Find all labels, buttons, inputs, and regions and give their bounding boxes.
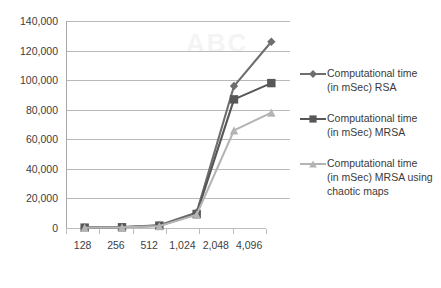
- diamond-icon: [309, 70, 317, 78]
- legend-label: Computational time (in mSec) RSA: [326, 66, 417, 94]
- y-axis-tick-label: 80,000: [26, 105, 58, 115]
- x-axis-tick-label: 512: [140, 239, 158, 251]
- chart-legend: Computational time (in mSec) RSA Computa…: [300, 66, 441, 215]
- legend-label: Computational time (in mSec) MRSA: [326, 111, 417, 139]
- series-line: [85, 113, 272, 228]
- series-1: [80, 79, 275, 232]
- legend-marker-diamond-icon: [300, 67, 326, 80]
- y-axis-tick-label: 40,000: [26, 164, 58, 174]
- square-icon: [309, 115, 317, 123]
- triangle-marker-icon: [230, 126, 238, 134]
- y-axis-tick-label: 60,000: [26, 134, 58, 144]
- y-axis-tick-label: 140,000: [20, 16, 58, 26]
- legend-marker-square-icon: [300, 112, 326, 125]
- triangle-icon: [309, 160, 317, 168]
- x-axis-tick-labels: 128 256 512 1,024 2,048 4,096: [66, 239, 290, 259]
- x-axis-tick: [66, 229, 67, 234]
- y-axis-tick-label: 100,000: [20, 75, 58, 85]
- y-axis-tick-labels: 140,000 120,000 100,000 80,000 60,000 40…: [0, 0, 62, 288]
- x-axis-tick: [166, 229, 167, 234]
- series-2: [80, 108, 275, 231]
- series-line: [85, 83, 272, 228]
- plot-area: 140,000 120,000 100,000 80,000 60,000 40…: [0, 0, 300, 288]
- square-marker-icon: [230, 95, 238, 103]
- x-axis-tick: [266, 229, 267, 234]
- x-axis-tick: [133, 229, 134, 234]
- legend-entry-rsa[interactable]: Computational time (in mSec) RSA: [300, 66, 441, 94]
- x-axis-tick-label: 128: [74, 239, 92, 251]
- y-axis-tick-label: 0: [52, 223, 58, 233]
- y-axis-tick-label: 120,000: [20, 46, 58, 56]
- x-axis-tick-label: 256: [107, 239, 125, 251]
- x-axis-tick-label: 4,096: [236, 239, 262, 251]
- y-axis-tick-label: 20,000: [26, 193, 58, 203]
- legend-entry-mrsa[interactable]: Computational time (in mSec) MRSA: [300, 111, 441, 139]
- legend-entry-mrsa-chaotic[interactable]: Computational time (in mSec) MRSA using …: [300, 156, 441, 198]
- x-axis-tick: [99, 229, 100, 234]
- x-axis-tick-label: 1,024: [169, 239, 195, 251]
- series-plot: [66, 21, 290, 228]
- series-line: [85, 42, 272, 228]
- legend-marker-triangle-icon: [300, 157, 326, 170]
- series-0: [80, 38, 275, 232]
- triangle-marker-icon: [267, 108, 275, 116]
- x-axis-tick: [199, 229, 200, 234]
- x-axis-tick-label: 2,048: [203, 239, 229, 251]
- x-axis-tick: [233, 229, 234, 234]
- line-chart: 140,000 120,000 100,000 80,000 60,000 40…: [0, 0, 441, 288]
- square-marker-icon: [267, 79, 275, 87]
- legend-label: Computational time (in mSec) MRSA using …: [326, 156, 433, 198]
